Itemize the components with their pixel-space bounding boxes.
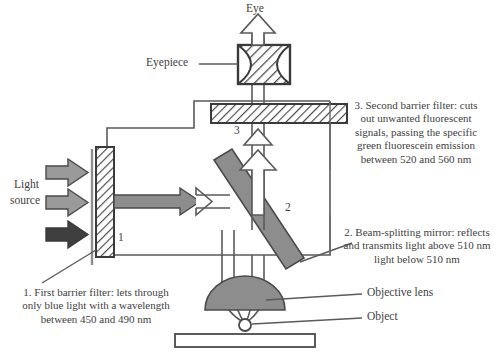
filter3-number-label: 3 <box>234 124 240 138</box>
light-arrow-middle <box>46 189 88 216</box>
caption3-line5: between 520 and 560 nm <box>336 153 496 166</box>
caption3-line4: green fluorescein emission <box>336 139 496 152</box>
objective-lens-label: Objective lens <box>367 286 433 300</box>
light-arrow-dark <box>46 221 88 248</box>
caption-first-barrier-filter: 1. First barrier filter: lets through on… <box>4 286 188 326</box>
object-label: Object <box>367 310 398 324</box>
leader-filter1 <box>42 250 96 283</box>
light-source-label-line2: source <box>10 194 40 208</box>
caption1-line2: only blue light with a wavelength <box>4 299 188 312</box>
caption-second-barrier-filter: 3. Second barrier filter: cuts out unwan… <box>336 99 496 166</box>
first-barrier-filter <box>92 147 114 265</box>
caption3-line2: out unwanted fluorescent <box>336 112 496 125</box>
emission-arrowhead-under-filter3 <box>244 129 272 145</box>
objective-lens <box>205 276 285 310</box>
filter1-number-label: 1 <box>118 231 124 245</box>
second-barrier-filter <box>211 104 347 123</box>
caption2-line2: and transmits light above 510 nm <box>337 239 497 252</box>
microscope-slide <box>175 334 315 347</box>
eye-label: Eye <box>246 2 264 16</box>
eyepiece-label: Eyepiece <box>146 56 188 70</box>
light-source-arrows <box>46 159 88 248</box>
reflected-beam-outline-arrow <box>196 188 230 215</box>
eyepiece <box>238 45 290 84</box>
eye-exit-arrow <box>241 14 275 45</box>
caption2-line3: light below 510 nm <box>337 253 497 266</box>
microscope-body-outline <box>107 101 330 255</box>
light-arrow-upper <box>46 159 88 186</box>
caption1-line1: 1. First barrier filter: lets through <box>4 286 188 299</box>
fluorescence-microscope-diagram: Eye Eyepiece Light source 1 3 2 Objectiv… <box>0 0 498 352</box>
caption3-line3: signals, passing the specific <box>336 126 496 139</box>
excitation-beam-arrow <box>114 188 200 215</box>
object-specimen <box>239 319 251 331</box>
mirror-number-label: 2 <box>285 201 291 215</box>
caption1-line3: between 450 and 490 nm <box>4 313 188 326</box>
caption-beam-splitting-mirror: 2. Beam-splitting mirror: reflects and t… <box>337 226 497 266</box>
caption2-line1: 2. Beam-splitting mirror: reflects <box>337 226 497 239</box>
light-source-label-line1: Light <box>14 178 39 192</box>
leader-object <box>252 318 362 324</box>
caption3-line1: 3. Second barrier filter: cuts <box>336 99 496 112</box>
